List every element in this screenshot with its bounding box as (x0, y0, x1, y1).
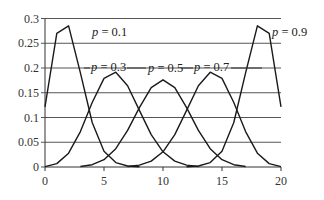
y-tick-label: 0.05 (18, 135, 39, 149)
y-tick-label: 0.2 (24, 61, 39, 75)
series-label: p = 0.3 (90, 60, 126, 74)
series-label: p = 0.5 (147, 61, 183, 75)
series-line-01 (45, 26, 139, 167)
x-tick-label: 20 (275, 174, 287, 188)
series-line-09 (187, 26, 281, 167)
series-line-07 (128, 72, 281, 166)
y-tick-label: 0.15 (18, 86, 39, 100)
y-tick-label: 0 (33, 160, 39, 174)
series-label: p = 0.7 (193, 60, 229, 74)
binomial-distribution-chart: 00.050.10.150.20.250.3 05101520 p = 0.1p… (0, 0, 324, 200)
y-axis-tick-labels: 00.050.10.150.20.250.3 (18, 12, 45, 175)
series-label: p = 0.1 (91, 25, 127, 39)
y-tick-label: 0.3 (24, 12, 39, 26)
x-axis-tick-labels: 05101520 (42, 167, 287, 188)
y-tick-label: 0.25 (18, 36, 39, 50)
x-tick-label: 15 (216, 174, 228, 188)
series-label: p = 0.9 (271, 25, 307, 39)
data-series (45, 26, 281, 167)
y-tick-label: 0.1 (24, 111, 39, 125)
x-tick-label: 10 (157, 174, 169, 188)
x-tick-label: 5 (101, 174, 107, 188)
x-tick-label: 0 (42, 174, 48, 188)
series-line-03 (45, 72, 198, 166)
